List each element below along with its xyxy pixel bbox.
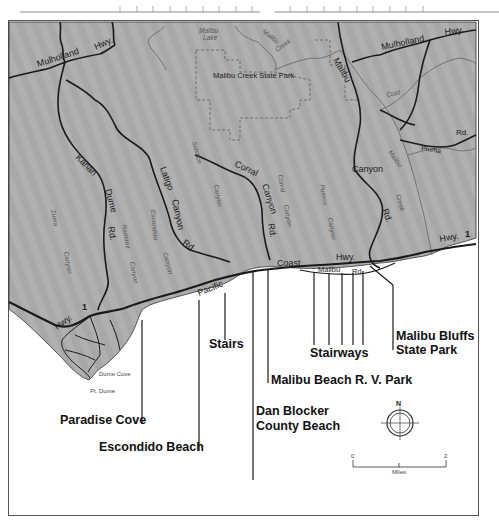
road-label-malibu-canyon-2: Canyon (352, 164, 383, 174)
road-label-pch-num-east: 1 (465, 229, 470, 239)
road-label-piuma-2: Rd. (456, 128, 468, 137)
callout-dan-blocker-1: Dan Blocker (256, 404, 329, 418)
road-label-malibu-rd-1: Malibu (318, 265, 340, 274)
callout-malibu-bluffs-1: Malibu Bluffs (396, 329, 475, 343)
callout-stairs: Stairs (209, 337, 244, 351)
compass-rose-icon (381, 407, 419, 440)
road-label-pch-num-west: 1 (82, 302, 87, 312)
lake-label-1: Malibu (199, 27, 219, 34)
callout-malibu-bluffs-2: State Park (396, 343, 457, 357)
scale-unit-label: Miles (392, 469, 406, 475)
park-label: Malibu Creek State Park (213, 71, 295, 80)
road-label-pch-coast: Coast (277, 258, 301, 268)
callout-escondido-beach: Escondido Beach (99, 440, 204, 454)
road-label-pch-hwy: Hwy. (336, 252, 355, 262)
compass-north-label: N (396, 400, 401, 407)
road-label-malibu-rd-2: Rd (352, 267, 362, 276)
callout-malibu-beach-rv: Malibu Beach R. V. Park (271, 373, 412, 387)
malibu-coast-map: Mulholland Hwy. Mulholland Hwy. Malibu C… (0, 0, 499, 524)
pt-dume-label: Pt. Dume (90, 388, 116, 394)
lake-label-2: Lake (203, 34, 217, 41)
callout-stairways: Stairways (310, 346, 368, 360)
callout-paradise-cove: Paradise Cove (60, 413, 146, 427)
scale-start-label: 0 (351, 453, 355, 459)
dume-cove-label: Dume Cove (99, 371, 131, 377)
scale-end-label: 2 (444, 453, 448, 459)
scale-bar (353, 460, 446, 467)
callout-dan-blocker-2: County Beach (256, 419, 340, 433)
